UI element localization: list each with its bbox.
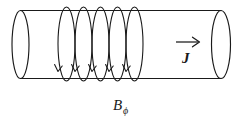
magnetic-field-symbol: B	[113, 97, 122, 113]
physics-figure: J B ϕ	[0, 0, 247, 120]
magnetic-field-subscript: ϕ	[123, 105, 128, 116]
current-density-label: J	[181, 50, 190, 66]
figure-canvas: J B ϕ	[0, 0, 247, 120]
